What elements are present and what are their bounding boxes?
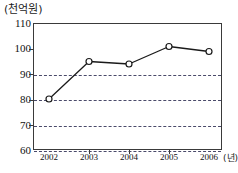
plot-area (33, 23, 222, 150)
y-tick-mark-70 (29, 125, 33, 126)
line-chart-figure: (천억원) 110 100 90 80 70 60 2002 2003 2004… (0, 0, 238, 173)
y-axis: 110 100 90 80 70 60 (0, 0, 31, 173)
x-tick-label-2006: 2006 (200, 152, 218, 163)
gridline-80 (34, 126, 221, 127)
x-tick-mark-2004 (129, 150, 130, 154)
y-tick-label-110: 110 (1, 18, 31, 29)
x-tick-label-2002: 2002 (40, 152, 58, 163)
x-tick-mark-2005 (169, 150, 170, 154)
gridline-90 (34, 100, 221, 101)
gridline-100 (34, 75, 221, 76)
y-tick-label-90: 90 (1, 69, 31, 80)
x-axis-unit-caption: (년) (223, 153, 238, 164)
y-tick-mark-90 (29, 74, 33, 75)
x-axis: 2002 2003 2004 2005 2006 (0, 152, 238, 168)
y-tick-label-100: 100 (1, 43, 31, 54)
x-tick-mark-2003 (89, 150, 90, 154)
y-tick-mark-80 (29, 100, 33, 101)
y-tick-label-70: 70 (1, 120, 31, 131)
y-tick-label-80: 80 (1, 94, 31, 105)
y-tick-mark-100 (29, 49, 33, 50)
